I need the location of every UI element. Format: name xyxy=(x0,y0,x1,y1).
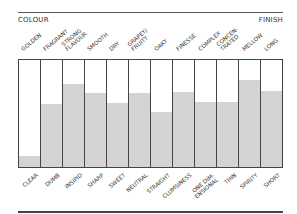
bar-fill xyxy=(239,80,260,167)
bar-fill xyxy=(107,103,128,167)
bottom-label: SPIRITY xyxy=(239,172,259,190)
top-label: GOLDEN xyxy=(20,32,42,52)
bottom-label: INSIPID xyxy=(63,172,82,190)
top-label: SMOOTH xyxy=(86,31,109,52)
bottom-label: ONE DIM- ENSIONAL xyxy=(190,172,220,199)
bar-fill xyxy=(85,93,106,167)
bar-column xyxy=(261,60,282,167)
top-label: MELLOW xyxy=(241,32,263,52)
bar-fill xyxy=(217,102,238,167)
bar-column xyxy=(63,60,85,167)
bar-column xyxy=(195,60,217,167)
chart-box xyxy=(18,59,283,168)
colour-header: COLOUR xyxy=(18,16,49,24)
bar-column xyxy=(41,60,63,167)
bar-column xyxy=(239,60,261,167)
top-label: LONG xyxy=(263,37,279,52)
bar-fill xyxy=(63,84,84,167)
top-label: DRY xyxy=(108,40,120,52)
bottom-label: THIN xyxy=(223,172,237,185)
top-label: GRAPEY/ FRUITY xyxy=(127,27,153,52)
bar-fill xyxy=(195,102,216,167)
top-rule xyxy=(18,12,283,13)
top-label: CONCEN- TRATED xyxy=(215,26,243,52)
bottom-rule xyxy=(18,211,283,213)
top-label: OAKY xyxy=(153,38,168,52)
bar-fill xyxy=(41,104,62,167)
bar-fill xyxy=(173,92,194,167)
bar-column xyxy=(107,60,129,167)
bottom-label: DUMB xyxy=(44,172,61,188)
finish-header: FINISH xyxy=(259,16,283,24)
bar-column xyxy=(19,60,41,167)
bar-column xyxy=(173,60,195,167)
bar-fill xyxy=(19,156,40,167)
bottom-label: CLEAR xyxy=(21,172,39,188)
bar-column xyxy=(129,60,151,167)
bottom-label: SWEET xyxy=(107,172,126,189)
bottom-label: SHORT xyxy=(263,172,281,189)
bar-fill xyxy=(129,93,150,167)
top-label: FINESSE xyxy=(175,32,197,52)
bar-column xyxy=(85,60,107,167)
bar-column xyxy=(151,60,173,167)
bottom-label: SHARP xyxy=(86,172,104,189)
bar-fill xyxy=(261,91,282,167)
bar-column xyxy=(217,60,239,167)
bar-fill xyxy=(151,112,172,167)
